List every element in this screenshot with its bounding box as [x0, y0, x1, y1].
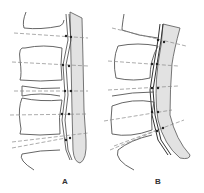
vertebra-b-4: [117, 135, 152, 170]
spine-diagram: [0, 0, 204, 193]
vertebra-b-upper: [112, 92, 154, 96]
vertebra-b-1: [122, 14, 158, 38]
spinal-canal-a: [70, 12, 86, 163]
vertebra-a-1: [23, 12, 64, 29]
panel-label-a: A: [62, 177, 68, 186]
vertebra-a-4: [21, 150, 60, 170]
panel-b: [104, 14, 190, 170]
vertebra-b-3: [111, 101, 154, 136]
vertebra-a-3: [19, 98, 62, 135]
vertebra-a-2: [20, 46, 62, 81]
panel-label-b: B: [155, 177, 161, 186]
panel-a: [10, 12, 88, 170]
